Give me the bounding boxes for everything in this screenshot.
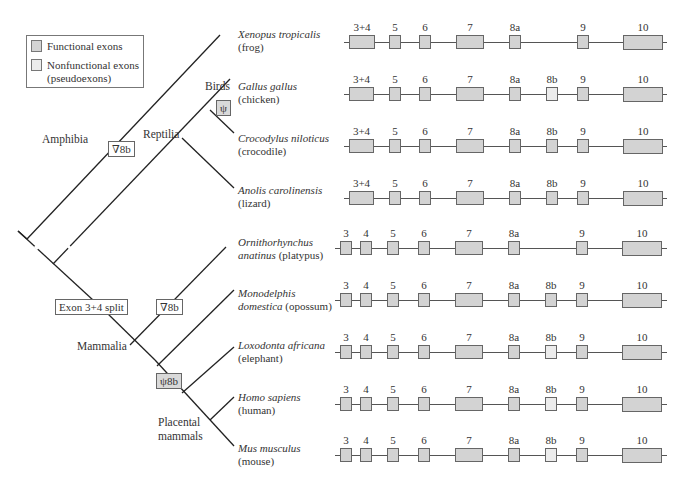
exon-label: 7 [450, 74, 490, 85]
nonfunctional-exon-swatch [31, 59, 42, 71]
exon-label: 6 [404, 384, 444, 395]
intron-line [335, 455, 667, 456]
exon-5 [389, 35, 401, 49]
exon-8b [545, 293, 557, 307]
gene-row: 345678a910 [0, 233, 685, 263]
exon-label: 7 [450, 22, 490, 33]
exon-5 [387, 241, 399, 255]
exon-3-4 [349, 87, 374, 101]
exon-label: 8a [494, 280, 534, 291]
exon-9 [577, 191, 589, 205]
exon-8a [508, 448, 520, 462]
exon-8a [509, 191, 521, 205]
exon-8a [509, 35, 521, 49]
gene-row: 3+45678a8b910 [0, 183, 685, 213]
intron-line [335, 404, 667, 405]
exon-6 [419, 87, 431, 101]
exon-9 [576, 448, 588, 462]
exon-10 [622, 345, 662, 360]
exon-10 [622, 241, 662, 256]
gene-row: 345678a8b910 [0, 285, 685, 315]
exon-7 [455, 241, 483, 255]
exon-8a [509, 139, 521, 153]
exon-9 [576, 293, 588, 307]
exon-6 [418, 397, 430, 411]
exon-7 [456, 191, 484, 205]
exon-label: 9 [563, 22, 603, 33]
exon-4 [360, 293, 372, 307]
exon-label: 6 [404, 435, 444, 446]
exon-8a [508, 397, 520, 411]
exon-9 [576, 345, 588, 359]
exon-label: 10 [622, 228, 662, 239]
exon-7 [455, 345, 483, 359]
exon-label: 7 [450, 126, 490, 137]
exon-8a [509, 87, 521, 101]
exon-label: 8a [495, 126, 535, 137]
exon-7 [455, 293, 483, 307]
exon-9 [576, 241, 588, 255]
gene-row: 3+45678a910 [0, 27, 685, 57]
exon-10 [622, 293, 662, 308]
exon-label: 10 [623, 126, 663, 137]
exon-label: 6 [404, 280, 444, 291]
exon-8a [508, 293, 520, 307]
gene-row: 3+45678a8b910 [0, 131, 685, 161]
exon-3 [340, 397, 352, 411]
exon-label: 6 [404, 228, 444, 239]
exon-8b-pseudoexon [545, 397, 557, 411]
exon-label: 6 [405, 22, 445, 33]
exon-7 [455, 448, 483, 462]
exon-10 [622, 397, 662, 412]
exon-label: 10 [623, 22, 663, 33]
exon-label: 9 [563, 74, 603, 85]
exon-5 [387, 293, 399, 307]
exon-label: 8a [494, 228, 534, 239]
exon-10 [623, 191, 663, 206]
exon-label: 9 [562, 228, 602, 239]
gene-row: 345678a8b910 [0, 337, 685, 367]
exon-5 [387, 397, 399, 411]
exon-9 [577, 35, 589, 49]
exon-4 [360, 345, 372, 359]
exon-4 [360, 397, 372, 411]
exon-9 [577, 87, 589, 101]
gene-row: 3+45678a8b910 [0, 79, 685, 109]
exon-8b-pseudoexon [545, 345, 557, 359]
exon-label: 9 [562, 384, 602, 395]
exon-8a [508, 345, 520, 359]
exon-label: 7 [449, 332, 489, 343]
exon-3-4 [349, 139, 374, 153]
exon-8b [546, 139, 558, 153]
exon-6 [418, 241, 430, 255]
exon-9 [577, 139, 589, 153]
exon-4 [360, 241, 372, 255]
exon-7 [456, 35, 484, 49]
exon-label: 9 [562, 280, 602, 291]
exon-8a [508, 241, 520, 255]
exon-6 [418, 345, 430, 359]
exon-5 [387, 345, 399, 359]
exon-label: 10 [622, 280, 662, 291]
marker-placental-8b-pseudo: ψ8b [156, 373, 182, 389]
exon-label: 9 [563, 178, 603, 189]
exon-label: 10 [622, 332, 662, 343]
exon-label: 7 [450, 178, 490, 189]
exon-9 [576, 397, 588, 411]
exon-10 [622, 448, 662, 463]
exon-label: 9 [562, 332, 602, 343]
exon-label: 7 [449, 435, 489, 446]
exon-label: 8a [494, 435, 534, 446]
exon-6 [418, 448, 430, 462]
exon-8b [546, 191, 558, 205]
intron-line [335, 300, 667, 301]
exon-7 [456, 87, 484, 101]
exon-label: 6 [405, 178, 445, 189]
exon-10 [623, 87, 663, 102]
exon-3 [340, 448, 352, 462]
exon-6 [419, 191, 431, 205]
exon-5 [389, 139, 401, 153]
exon-10 [623, 139, 663, 154]
exon-label: 9 [563, 126, 603, 137]
exon-label: 6 [405, 74, 445, 85]
